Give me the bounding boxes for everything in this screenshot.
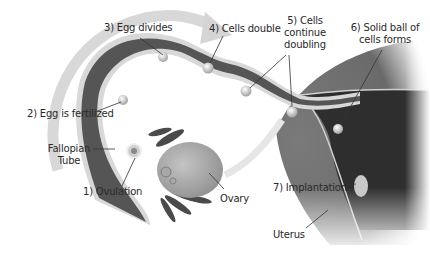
label-solid-ball: 6) Solid ball of cells forms xyxy=(345,22,425,46)
label-cells-double: 4) Cells double xyxy=(209,23,281,35)
implantation-site xyxy=(354,175,368,197)
label-implantation: 7) Implantation xyxy=(273,182,347,194)
label-fallopian-tube: Fallopian Tube xyxy=(46,143,92,167)
cells-doubling-1 xyxy=(241,86,252,97)
cells-doubling-2 xyxy=(287,107,298,118)
uterus xyxy=(270,30,430,255)
cells-double xyxy=(203,63,214,74)
label-step6-line1: 6) Solid ball of xyxy=(345,22,425,34)
reproduction-diagram: 3) Egg divides 4) Cells double 5) Cells … xyxy=(0,0,430,255)
label-fallopian-line2: Tube xyxy=(46,155,92,167)
label-step6-line2: cells forms xyxy=(345,34,425,46)
label-cells-continue-doubling: 5) Cells continue doubling xyxy=(280,15,330,51)
label-step5-line2: continue xyxy=(280,27,330,39)
solid-ball xyxy=(333,124,343,134)
label-fallopian-line1: Fallopian xyxy=(46,143,92,155)
label-ovulation: 1) Ovulation xyxy=(83,186,142,198)
label-egg-fertilized: 2) Egg is fertilized xyxy=(27,108,114,120)
label-ovary: Ovary xyxy=(220,193,249,205)
label-step5-line3: doubling xyxy=(280,39,330,51)
egg-fertilized xyxy=(118,95,128,105)
label-uterus: Uterus xyxy=(273,229,305,241)
label-egg-divides: 3) Egg divides xyxy=(104,22,172,34)
label-step5-line1: 5) Cells xyxy=(280,15,330,27)
egg-dividing xyxy=(158,52,168,62)
